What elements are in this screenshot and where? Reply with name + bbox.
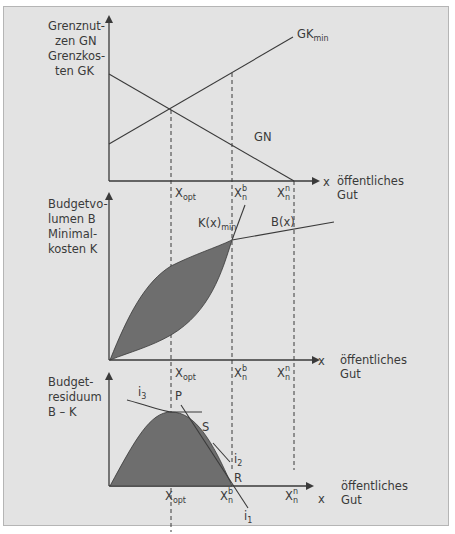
- y-axis-label: Budget- residuum B – K: [48, 375, 105, 419]
- point-p-label: P: [175, 389, 182, 403]
- panel-budget-cost: Budgetvo- lumen B Minimal- kosten K x öf…: [48, 194, 411, 382]
- tangent-i2-label: i2: [234, 452, 242, 468]
- x-axis-label: x: [323, 175, 330, 189]
- residual-area: [110, 412, 232, 486]
- tick-x-opt: Xopt: [175, 186, 196, 202]
- y-axis-label: Budgetvo- lumen B Minimal- kosten K: [48, 197, 111, 256]
- x-axis-label: x: [318, 354, 325, 368]
- curve-gn-label: GN: [254, 130, 272, 144]
- tick-x-b-n: Xbn: [234, 364, 247, 382]
- y-axis-label: Grenznut- zen GN Grenzkos- ten GK: [48, 19, 109, 78]
- tangent-i1-label: i1: [244, 509, 252, 525]
- tick-x-opt: Xopt: [165, 489, 186, 505]
- curve-gk-label: GKmin: [297, 27, 329, 43]
- x-axis-caption: öffentliches Gut: [341, 479, 412, 507]
- panel-marginal: Grenznut- zen GN Grenzkos- ten GK x öffe…: [48, 17, 408, 532]
- tick-x-n-n: Xnn: [277, 184, 290, 202]
- x-axis-label: x: [318, 492, 325, 506]
- point-s-label: S: [202, 420, 209, 434]
- x-axis-caption: öffentliches Gut: [337, 174, 408, 202]
- tick-x-b-n: Xbn: [234, 184, 247, 202]
- tangent-i3: [127, 400, 202, 412]
- tick-x-b-n: Xbn: [220, 487, 233, 505]
- curve-k-label: K(x)min: [198, 216, 236, 232]
- tick-x-opt: Xopt: [175, 366, 196, 382]
- tick-x-n-n: Xnn: [277, 364, 290, 382]
- tick-x-n-n: Xnn: [285, 487, 298, 505]
- point-r-label: R: [234, 471, 242, 485]
- tangent-i3-label: i3: [138, 385, 146, 401]
- curve-b-label: B(x): [271, 215, 295, 229]
- diagram-canvas: Grenznut- zen GN Grenzkos- ten GK x öffe…: [0, 0, 455, 534]
- panel-budget-residual: Budget- residuum B – K x öffentliches Gu…: [48, 374, 412, 525]
- x-axis-caption: öffentliches Gut: [340, 353, 411, 381]
